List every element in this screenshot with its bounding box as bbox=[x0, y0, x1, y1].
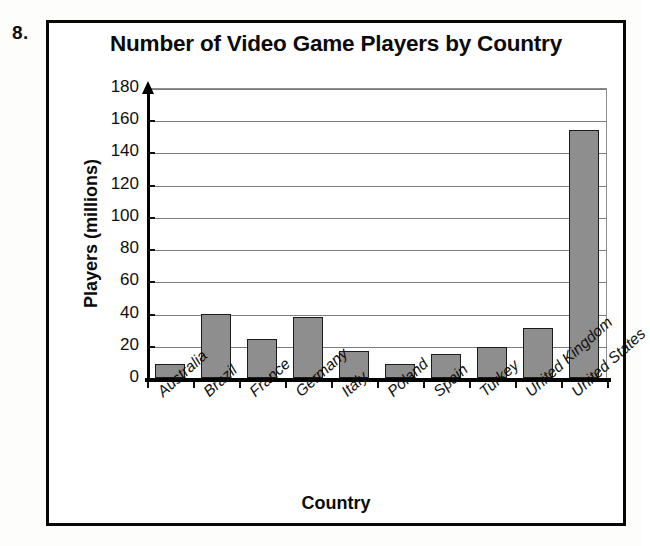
y-tick-label: 60 bbox=[93, 270, 139, 290]
x-tick-mark bbox=[561, 382, 563, 388]
x-tick-mark bbox=[239, 382, 241, 388]
x-tick-mark bbox=[285, 382, 287, 388]
y-tick-label: 120 bbox=[93, 174, 139, 194]
y-tick-label: 100 bbox=[93, 206, 139, 226]
x-axis-title: Country bbox=[49, 493, 623, 514]
x-tick-mark bbox=[331, 382, 333, 388]
y-tick-label: 180 bbox=[93, 77, 139, 97]
figure-box: Number of Video Game Players by Country … bbox=[46, 20, 626, 526]
x-tick-mark bbox=[423, 382, 425, 388]
problem-number: 8. bbox=[12, 22, 29, 44]
x-tick-mark bbox=[469, 382, 471, 388]
y-tick-label: 20 bbox=[93, 335, 139, 355]
x-tick-mark bbox=[607, 382, 609, 388]
x-tick-mark bbox=[515, 382, 517, 388]
y-tick-label: 140 bbox=[93, 141, 139, 161]
chart-title: Number of Video Game Players by Country bbox=[49, 31, 623, 57]
y-tick-label: 40 bbox=[93, 303, 139, 323]
x-tick-mark bbox=[377, 382, 379, 388]
y-tick-label: 0 bbox=[93, 367, 139, 387]
x-tick-mark bbox=[193, 382, 195, 388]
bars bbox=[147, 88, 607, 378]
y-tick-label: 80 bbox=[93, 238, 139, 258]
x-tick-mark bbox=[147, 382, 149, 388]
y-tick-label: 160 bbox=[93, 109, 139, 129]
